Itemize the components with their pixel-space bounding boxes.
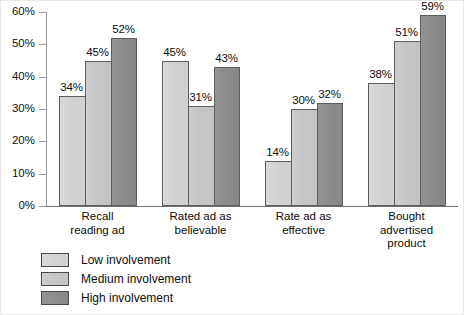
y-axis-tick-label: 50% [1,39,35,51]
legend-swatch [41,253,69,267]
bar[interactable] [214,67,240,206]
category-label: Rate ad aseffective [252,210,355,237]
chart-legend: Low involvementMedium involvementHigh in… [41,251,191,308]
bar-group [265,12,343,206]
y-axis-tick-label: 0% [1,200,35,212]
category-label: Rated ad asbelievable [149,210,252,237]
y-axis-tick [39,174,46,175]
bar[interactable] [59,96,86,206]
y-axis-tick-label: 60% [1,6,35,18]
bar-value-label: 32% [311,89,349,101]
legend-item[interactable]: High involvement [41,289,191,307]
y-axis-tick-label: 10% [1,168,35,180]
bar[interactable] [111,38,137,206]
bar-value-label: 38% [362,69,400,81]
category-label-line: reading ad [46,224,149,238]
legend-item[interactable]: Low involvement [41,251,191,269]
category-label-line: Bought [355,210,458,224]
bar-group [162,12,240,206]
y-axis-tick [39,44,46,45]
category-label-line: Rate ad as [252,210,355,224]
x-axis-baseline [46,206,458,207]
bar-value-label: 43% [208,53,246,65]
category-label-line: product [355,237,458,251]
legend-label: High involvement [81,292,173,304]
category-label-line: Recall [46,210,149,224]
bar-value-label: 52% [105,24,143,36]
y-axis-tick [39,109,46,110]
bar[interactable] [188,106,215,206]
legend-label: Medium involvement [81,273,191,285]
bar[interactable] [265,161,292,206]
bar-value-label: 45% [79,47,117,59]
category-label-line: effective [252,224,355,238]
bar[interactable] [394,41,421,206]
y-axis-tick-label: 20% [1,136,35,148]
bar[interactable] [317,103,343,206]
legend-item[interactable]: Medium involvement [41,270,191,288]
y-axis-tick [39,141,46,142]
bar-group [59,12,137,206]
legend-swatch [41,272,69,286]
bar-value-label: 51% [388,27,426,39]
bar[interactable] [162,61,189,207]
y-axis-tick-label: 40% [1,71,35,83]
bar-value-label: 14% [259,147,297,159]
y-axis-tick-label: 30% [1,103,35,115]
bar-value-label: 31% [182,92,220,104]
category-label: Boughtadvertisedproduct [355,210,458,251]
bar-value-label: 59% [414,1,452,13]
category-label-line: believable [149,224,252,238]
bar-group [368,12,446,206]
y-axis-tick [39,206,46,207]
legend-swatch [41,291,69,305]
category-label-line: Rated ad as [149,210,252,224]
legend-label: Low involvement [81,254,170,266]
y-axis-tick [39,12,46,13]
bar[interactable] [420,15,446,206]
bar[interactable] [368,83,395,206]
category-label-line: advertised [355,224,458,238]
y-axis-line [46,12,47,206]
bar-value-label: 34% [53,82,91,94]
bar-chart-figure: 60%50%40%30%20%10%0% 34%45%52%45%31%43%1… [0,0,464,315]
bar-value-label: 45% [156,47,194,59]
y-axis-tick [39,77,46,78]
category-label: Recallreading ad [46,210,149,237]
